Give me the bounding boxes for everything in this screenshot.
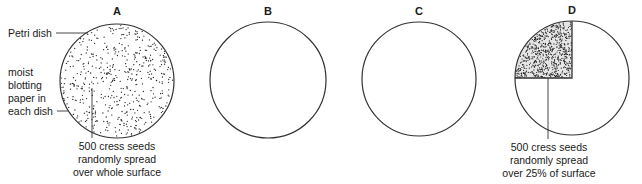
petri-dish-c: [362, 22, 476, 136]
dish-c: C: [362, 5, 476, 136]
seeds-d-note-line2: randomly spread: [510, 154, 588, 166]
annotations-d: 500 cress seeds randomly spread over 25%…: [502, 78, 596, 179]
petri-dish-diagram: A B C D Petri dish moist blotting paper …: [0, 0, 642, 184]
blotting-label-line4: each dish: [8, 105, 53, 117]
seeds-a-note-line2: randomly spread: [78, 153, 156, 165]
dish-b-label: B: [264, 5, 272, 17]
seeds-a-note-line3: over whole surface: [73, 166, 161, 178]
dish-b: B: [210, 5, 326, 138]
dish-a-label: A: [113, 5, 121, 17]
annotations-a: Petri dish moist blotting paper in each …: [8, 27, 161, 178]
seeds-d-note-line1: 500 cress seeds: [511, 141, 587, 153]
seeds-a-note-line1: 500 cress seeds: [79, 140, 155, 152]
petri-dish-b: [210, 22, 326, 138]
blotting-label-line1: moist: [8, 66, 33, 78]
dish-d-label: D: [568, 4, 576, 16]
petri-dish-label: Petri dish: [8, 27, 52, 39]
blotting-label-line2: blotting: [8, 79, 42, 91]
blotting-label-line3: paper in: [8, 92, 46, 104]
seeds-a: [61, 25, 174, 137]
seeds-d-note-line3: over 25% of surface: [502, 167, 596, 179]
dish-a: A: [60, 5, 174, 138]
dish-c-label: C: [415, 5, 423, 17]
dish-d: D: [515, 4, 629, 135]
